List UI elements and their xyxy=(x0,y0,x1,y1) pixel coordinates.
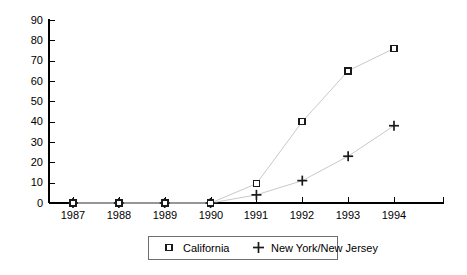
chart-canvas: 90 80 70 60 50 40 30 20 10 0 xyxy=(0,0,467,275)
y-tick-label: 30 xyxy=(31,136,43,148)
series-line-newyork-newjersey xyxy=(73,126,394,203)
legend-label-california: California xyxy=(183,242,230,254)
data-point-marker-square xyxy=(345,68,351,74)
x-tick-label: 1991 xyxy=(244,209,268,221)
data-point-marker-square xyxy=(116,200,122,206)
data-point-marker-plus xyxy=(389,121,399,131)
data-point-marker-plus xyxy=(251,190,261,200)
y-tick-label: 50 xyxy=(31,95,43,107)
data-point-marker-plus xyxy=(297,176,307,186)
x-tick-label: 1988 xyxy=(107,209,131,221)
y-axis-ticks xyxy=(49,20,55,203)
legend: California New York/New Jersey xyxy=(149,237,379,260)
legend-marker-square-icon xyxy=(166,245,172,251)
y-tick-label: 20 xyxy=(31,156,43,168)
data-point-marker-square xyxy=(253,181,259,187)
y-tick-label: 10 xyxy=(31,176,43,188)
x-tick-label: 1994 xyxy=(382,209,406,221)
y-tick-label: 60 xyxy=(31,75,43,87)
data-point-marker-square xyxy=(299,119,305,125)
x-axis-ticks xyxy=(73,197,443,203)
series-markers-california xyxy=(70,45,397,206)
data-point-marker-square xyxy=(70,200,76,206)
y-tick-label: 90 xyxy=(31,14,43,26)
x-tick-label: 1989 xyxy=(153,209,177,221)
legend-label-newyork-newjersey: New York/New Jersey xyxy=(271,242,378,254)
x-tick-label: 1990 xyxy=(199,209,223,221)
y-tick-label: 0 xyxy=(37,197,43,209)
data-point-marker-square xyxy=(162,200,168,206)
y-tick-label: 80 xyxy=(31,34,43,46)
data-point-marker-square xyxy=(208,200,214,206)
data-point-marker-plus xyxy=(343,151,353,161)
series-markers-newyork-newjersey xyxy=(68,121,399,208)
y-tick-label: 40 xyxy=(31,115,43,127)
x-tick-label: 1992 xyxy=(290,209,314,221)
line-chart: 90 80 70 60 50 40 30 20 10 0 xyxy=(0,0,467,275)
data-point-marker-square xyxy=(391,45,397,51)
x-tick-label: 1987 xyxy=(61,209,85,221)
y-tick-label: 70 xyxy=(31,54,43,66)
x-tick-label: 1993 xyxy=(336,209,360,221)
y-axis-tick-labels: 90 80 70 60 50 40 30 20 10 0 xyxy=(31,14,43,209)
x-axis-tick-labels: 1987 1988 1989 1990 1991 1992 1993 1994 xyxy=(61,209,406,221)
